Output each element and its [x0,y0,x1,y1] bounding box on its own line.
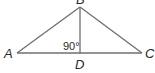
vertex-label-a: A [3,46,13,61]
vertex-label-b: B [76,0,85,7]
right-angle-label: 90° [63,40,80,52]
vertex-label-d: D [75,57,84,72]
vertex-label-c: C [145,46,155,61]
segment-bc [80,7,142,53]
triangle-diagram: B A C D 90° [0,0,155,73]
